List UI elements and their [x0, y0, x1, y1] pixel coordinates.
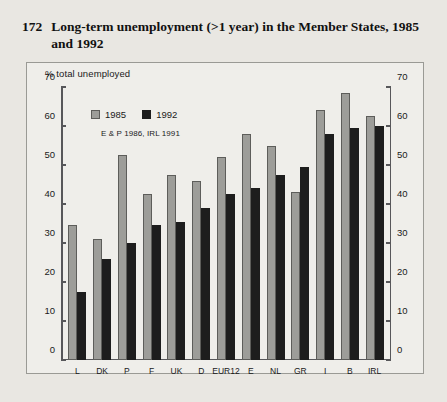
y-tick-label-r-60: 60	[397, 110, 408, 121]
x-tick-label-IRL: IRL	[345, 366, 405, 376]
bar-EUR12-1992	[226, 194, 235, 360]
y-tick-label-l-60: 60	[44, 110, 55, 121]
y-tick-label-r-30: 30	[397, 227, 408, 238]
figure-number: 172	[22, 18, 42, 35]
y-tick-label-r-10: 10	[397, 305, 408, 316]
bar-group-GR: GR	[288, 87, 313, 360]
bar-group-EUR12: EUR12	[214, 87, 239, 360]
y-tick-label-l-30: 30	[44, 227, 55, 238]
bar-group-D: D	[189, 87, 214, 360]
y-tick-label-l-10: 10	[44, 305, 55, 316]
y-tick-label-r-40: 40	[397, 188, 408, 199]
bar-DK-1985	[93, 239, 102, 360]
bar-IRL-1992	[375, 126, 384, 360]
plot-inner: 001010202030304040505060607070LDKPFUKDEU…	[61, 87, 391, 360]
bar-group-UK: UK	[164, 87, 189, 360]
y-tick-label-r-0: 0	[397, 344, 402, 355]
bar-F-1985	[143, 194, 152, 360]
bar-E-1992	[251, 188, 260, 360]
chart-container: % total unemployed 1985 1992 E & P 1986,…	[26, 62, 424, 374]
y-tick-label-r-20: 20	[397, 266, 408, 277]
bar-P-1992	[127, 243, 136, 360]
plot-area: 001010202030304040505060607070LDKPFUKDEU…	[61, 87, 391, 360]
y-tick-label-l-50: 50	[44, 149, 55, 160]
bar-L-1985	[68, 225, 77, 360]
figure-title-text: Long-term unemployment (>1 year) in the …	[51, 18, 432, 52]
y-tick-label-r-50: 50	[397, 149, 408, 160]
bar-I-1992	[325, 134, 334, 360]
bar-GR-1985	[291, 192, 300, 360]
bar-B-1985	[341, 93, 350, 360]
bar-group-P: P	[115, 87, 140, 360]
bar-group-B: B	[337, 87, 362, 360]
figure-title: 172 Long-term unemployment (>1 year) in …	[22, 18, 432, 52]
bar-UK-1985	[167, 175, 176, 360]
y-axis-title: % total unemployed	[45, 68, 130, 79]
bar-group-NL: NL	[263, 87, 288, 360]
y-tick-label-l-20: 20	[44, 266, 55, 277]
y-axis-left	[61, 87, 63, 360]
bar-L-1992	[77, 292, 86, 360]
bar-group-DK: DK	[90, 87, 115, 360]
y-tick-label-l-70: 70	[44, 71, 55, 82]
bar-group-F: F	[139, 87, 164, 360]
bar-DK-1992	[102, 259, 111, 360]
y-tick-label-l-40: 40	[44, 188, 55, 199]
y-tick-label-l-0: 0	[50, 344, 55, 355]
bar-UK-1992	[176, 222, 185, 360]
bar-I-1985	[316, 110, 325, 360]
bar-NL-1992	[276, 175, 285, 360]
bar-E-1985	[242, 134, 251, 360]
bar-group-IRL: IRL	[362, 87, 387, 360]
bar-group-I: I	[313, 87, 338, 360]
bar-B-1992	[350, 128, 359, 360]
y-tick-label-r-70: 70	[397, 71, 408, 82]
bar-NL-1985	[267, 146, 276, 361]
bar-D-1985	[192, 181, 201, 360]
bar-F-1992	[152, 225, 161, 360]
figure-page: 172 Long-term unemployment (>1 year) in …	[0, 0, 447, 402]
bar-EUR12-1985	[217, 157, 226, 360]
y-axis-right	[390, 87, 392, 360]
bar-GR-1992	[300, 167, 309, 360]
bar-IRL-1985	[366, 116, 375, 360]
bar-group-L: L	[65, 87, 90, 360]
bar-D-1992	[201, 208, 210, 360]
bar-group-E: E	[238, 87, 263, 360]
bar-P-1985	[118, 155, 127, 360]
